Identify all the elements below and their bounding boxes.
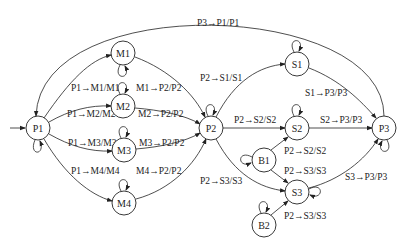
label-p1-m1: P1→M1/M1 — [71, 83, 120, 93]
state-diagram: P3→P1/P1 P1→M1/M1 P1→M2/M2 P1→M3/M3 P1→M… — [0, 0, 405, 248]
label-p1-m2: P1→M2/M2 — [67, 109, 116, 119]
self-loop-s3 — [309, 187, 320, 196]
label-p2-s3: P2→S3/S3 — [200, 176, 242, 186]
self-loop-p2 — [206, 105, 214, 116]
node-m1: M1 — [111, 41, 135, 65]
node-m2: M2 — [111, 94, 135, 118]
svg-text:P3: P3 — [379, 123, 390, 134]
label-p1-m4: P1→M4/M4 — [71, 166, 120, 176]
svg-text:S2: S2 — [292, 123, 303, 134]
label-p3-p1: P3→P1/P1 — [197, 18, 239, 28]
svg-text:M4: M4 — [117, 198, 131, 209]
svg-text:P1: P1 — [33, 123, 44, 134]
node-m3: M3 — [112, 138, 136, 162]
label-m1-p2: M1→P2/P2 — [136, 83, 182, 93]
node-s2: S2 — [285, 116, 309, 140]
node-p3: P3 — [372, 116, 396, 140]
edge-p2-s1 — [216, 64, 285, 117]
node-p2: P2 — [199, 116, 223, 140]
node-s3: S3 — [285, 180, 309, 204]
self-loop-p1 — [33, 140, 41, 152]
self-loop-b2 — [259, 202, 267, 213]
label-p2-s2: P2→S2/S2 — [234, 115, 276, 125]
self-loop-s2 — [292, 105, 300, 116]
node-s1: S1 — [285, 52, 309, 76]
node-b1: B1 — [252, 148, 276, 172]
svg-text:M3: M3 — [117, 145, 131, 156]
self-loop-b1 — [241, 155, 252, 164]
edge-p3-p1 — [36, 25, 384, 116]
label-m3-p2: M3→P2/P2 — [139, 138, 185, 148]
self-loop-m4 — [119, 180, 127, 191]
svg-text:B1: B1 — [258, 155, 270, 166]
label-b2-s3: P2→S3/S3 — [284, 211, 326, 221]
svg-text:P2: P2 — [206, 123, 217, 134]
label-s2-p3: S2→P3/P3 — [320, 115, 362, 125]
svg-text:M2: M2 — [116, 101, 130, 112]
svg-text:B2: B2 — [258, 220, 270, 231]
svg-text:S3: S3 — [292, 187, 303, 198]
self-loop-s1 — [292, 41, 300, 52]
label-m4-p2: M4→P2/P2 — [136, 166, 182, 176]
label-b1-s2: P2→S2/S2 — [284, 146, 326, 156]
label-p1-m3: P1→M3/M3 — [68, 138, 117, 148]
node-b2: B2 — [252, 213, 276, 237]
self-loop-m3 — [119, 127, 127, 138]
self-loop-p3 — [380, 140, 388, 151]
node-p1: P1 — [26, 116, 50, 140]
node-m4: M4 — [112, 191, 136, 215]
label-p2-s1: P2→S1/S1 — [200, 73, 242, 83]
label-s1-p3: S1→P3/P3 — [305, 88, 347, 98]
label-s3-p3: S3→P3/P3 — [345, 172, 387, 182]
label-b1-s3: P2→S3/S3 — [284, 166, 326, 176]
svg-text:S1: S1 — [292, 59, 303, 70]
self-loop-m1 — [118, 65, 126, 76]
svg-text:M1: M1 — [116, 48, 130, 59]
label-m2-p2: M2→P2/P2 — [138, 109, 184, 119]
